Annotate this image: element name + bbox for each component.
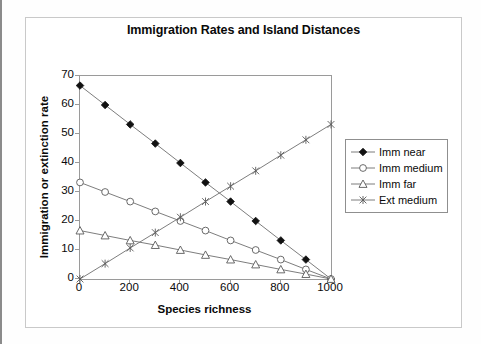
y-tick-label: 70 xyxy=(52,69,74,81)
x-tick-label: 200 xyxy=(107,282,151,294)
y-tick-label: 10 xyxy=(52,243,74,255)
plot-area xyxy=(79,75,332,280)
y-tick-label: 30 xyxy=(52,185,74,197)
x-tick-label: 0 xyxy=(57,282,101,294)
page-root: Immigration Rates and Island Distances I… xyxy=(0,0,481,344)
legend-item[interactable]: Imm near xyxy=(350,144,442,160)
y-tick-label: 60 xyxy=(52,98,74,110)
plot-series-canvas xyxy=(80,76,331,279)
legend-item-label: Imm medium xyxy=(376,162,443,174)
chart-title: Immigration Rates and Island Distances xyxy=(25,23,462,37)
legend-marker-filled-diamond-icon xyxy=(350,145,376,159)
y-tick-label: 40 xyxy=(52,156,74,168)
series-imm-medium xyxy=(77,179,335,282)
x-tick-label: 600 xyxy=(208,282,252,294)
legend-marker-open-circle-icon xyxy=(350,161,376,175)
legend-item[interactable]: Ext medium xyxy=(350,192,442,208)
legend-item-label: Ext medium xyxy=(376,194,437,206)
x-axis-title: Species richness xyxy=(79,303,330,315)
x-tick-label: 1000 xyxy=(308,282,352,294)
legend-item-label: Imm near xyxy=(376,146,425,158)
legend-item-label: Imm far xyxy=(376,178,416,190)
legend: Imm nearImm mediumImm farExt medium xyxy=(345,139,448,213)
y-tick-label: 20 xyxy=(52,214,74,226)
y-tick-label: 50 xyxy=(52,127,74,139)
series-imm-far xyxy=(76,227,335,283)
legend-marker-cross-x-icon xyxy=(350,193,376,207)
x-tick-label: 400 xyxy=(157,282,201,294)
page-edge-divider xyxy=(0,0,2,344)
x-tick-label: 800 xyxy=(258,282,302,294)
legend-item[interactable]: Imm medium xyxy=(350,160,442,176)
legend-marker-open-triangle-icon xyxy=(350,177,376,191)
legend-item[interactable]: Imm far xyxy=(350,176,442,192)
